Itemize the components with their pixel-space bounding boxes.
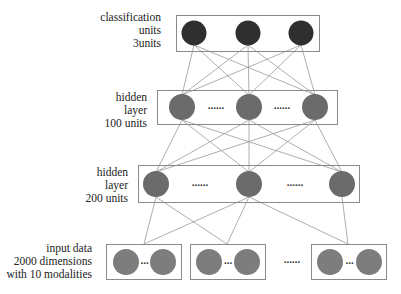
hidden1-node-3 xyxy=(302,94,328,120)
hidden2-node-1 xyxy=(143,171,169,197)
output-node-3 xyxy=(289,21,314,46)
input-node xyxy=(150,249,176,275)
hidden-layer-200-label: hidden layer 200 units xyxy=(86,166,129,205)
input-group-ellipsis: ... xyxy=(140,254,149,266)
hidden1-node-1 xyxy=(169,94,195,120)
hidden2-node-3 xyxy=(329,171,355,197)
edges-input-hidden2 xyxy=(144,197,348,244)
hidden1-node-2 xyxy=(236,94,262,120)
input-layer: ... ... ...... ... xyxy=(107,245,387,280)
input-group-ellipsis: ... xyxy=(224,254,233,266)
input-group-1: ... xyxy=(107,245,182,280)
label-line: 200 units xyxy=(86,192,129,205)
hidden2-ellipsis-1: ...... xyxy=(192,176,209,188)
hidden2-node-2 xyxy=(236,171,262,197)
label-line: input data xyxy=(6,242,92,255)
label-line: layer xyxy=(86,179,129,192)
input-layer-label: input data 2000 dimensions with 10 modal… xyxy=(6,242,92,281)
label-line: with 10 modalities xyxy=(6,268,92,281)
label-line: 100 units xyxy=(105,117,148,130)
hidden-layer-100: ...... ...... xyxy=(158,91,338,125)
hidden2-ellipsis-2: ...... xyxy=(287,176,304,188)
label-line: classification xyxy=(100,11,161,24)
output-node-1 xyxy=(182,21,207,46)
hidden1-ellipsis-2: ...... xyxy=(274,99,291,111)
input-node xyxy=(113,249,139,275)
label-line: layer xyxy=(105,104,148,117)
input-node xyxy=(317,249,343,275)
output-node-2 xyxy=(236,21,261,46)
hidden-layer-100-label: hidden layer 100 units xyxy=(105,91,148,130)
input-node xyxy=(234,249,260,275)
label-line: 2000 dimensions xyxy=(6,255,92,268)
label-line: hidden xyxy=(86,166,129,179)
input-group-2: ... xyxy=(191,245,266,280)
hidden1-ellipsis-1: ...... xyxy=(208,99,225,111)
input-group-ellipsis: ... xyxy=(345,254,354,266)
input-node xyxy=(196,249,222,275)
label-line: 3units xyxy=(100,37,161,50)
input-node xyxy=(356,249,382,275)
edges-hidden1-hidden2 xyxy=(156,120,342,172)
neural-network-diagram: ...... ...... ...... ...... ... xyxy=(0,0,401,294)
input-group-3: ... xyxy=(312,245,387,280)
input-groups-ellipsis: ...... xyxy=(284,253,301,265)
label-line: hidden xyxy=(105,91,148,104)
label-line: units xyxy=(100,24,161,37)
edges-output-hidden1 xyxy=(182,45,315,95)
edges xyxy=(144,45,348,244)
hidden-layer-200: ...... ...... xyxy=(139,166,360,203)
output-layer-label: classification units 3units xyxy=(100,11,161,50)
